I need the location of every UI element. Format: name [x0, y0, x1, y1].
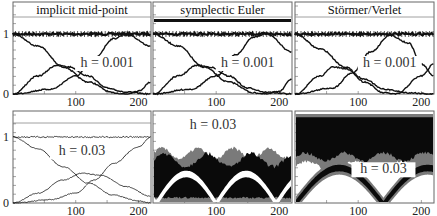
panel-bottom-right: h = 0.03100200	[295, 111, 435, 216]
x-tick-label: 100	[349, 95, 367, 109]
panel-title: implicit mid-point	[36, 3, 128, 17]
x-tick-label: 100	[207, 95, 225, 109]
step-size-label: h = 0.001	[80, 55, 133, 70]
panel-title: Störmer/Verlet	[328, 3, 402, 17]
x-tick-label: 200	[129, 95, 147, 109]
y-tick-label: 0	[3, 87, 9, 101]
series-line	[13, 173, 150, 203]
y-tick-label: 0	[3, 196, 9, 210]
x-tick-label: 200	[129, 204, 147, 216]
step-size-label: h = 0.03	[360, 161, 406, 176]
x-tick-label: 100	[349, 204, 367, 216]
series-line	[13, 136, 150, 137]
panel-bottom-left: h = 0.0310020001	[3, 111, 151, 216]
panel-top-middle: symplectic Eulerh = 0.001100200	[153, 2, 292, 109]
x-tick-label: 100	[67, 204, 85, 216]
panel-title: symplectic Euler	[180, 3, 265, 17]
step-size-label: h = 0.03	[190, 117, 236, 132]
x-tick-label: 100	[207, 204, 225, 216]
step-size-label: h = 0.001	[221, 55, 274, 70]
x-tick-label: 200	[412, 204, 430, 216]
figure: implicit mid-pointh = 0.00110020001sympl…	[0, 0, 437, 216]
x-tick-label: 200	[270, 95, 288, 109]
x-tick-label: 200	[270, 204, 288, 216]
series-line	[295, 33, 433, 35]
x-tick-label: 100	[67, 95, 85, 109]
panel-bottom-middle: h = 0.03100200	[153, 111, 293, 216]
panel-top-right: Störmer/Verleth = 0.001100200	[295, 2, 434, 109]
y-tick-label: 1	[3, 130, 9, 144]
x-tick-label: 200	[412, 95, 430, 109]
step-size-label: h = 0.03	[59, 143, 105, 158]
step-size-label: h = 0.001	[363, 55, 416, 70]
panel-top-left: implicit mid-pointh = 0.00110020001	[3, 2, 151, 109]
y-tick-label: 1	[3, 27, 9, 41]
